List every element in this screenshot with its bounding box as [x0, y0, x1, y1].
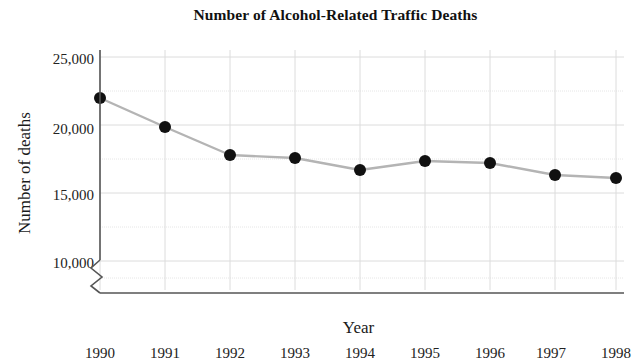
data-point [610, 172, 622, 184]
data-point [354, 164, 366, 176]
chart-title: Number of Alcohol-Related Traffic Deaths [0, 6, 631, 24]
y-tick-label: 25,000 [28, 52, 94, 67]
x-tick-label: 1990 [65, 346, 135, 361]
data-point [224, 149, 236, 161]
data-point-markers [94, 92, 622, 184]
x-tick-label: 1992 [195, 346, 265, 361]
data-point [484, 157, 496, 169]
y-tick-label: 15,000 [28, 188, 94, 203]
x-tick-label: 1993 [260, 346, 330, 361]
data-point [159, 121, 171, 133]
y-tick-label-group: 25,000 20,000 15,000 10,000 [26, 0, 94, 290]
x-axis-title: Year [100, 318, 617, 338]
plot-area: 1990 1991 1992 1993 1994 1995 1996 1997 … [100, 50, 624, 290]
x-tick-label: 1994 [325, 346, 395, 361]
x-tick-label: 1991 [130, 346, 200, 361]
data-point [549, 169, 561, 181]
y-tick-label: 10,000 [28, 256, 94, 271]
data-point [289, 152, 301, 164]
x-tick-label: 1998 [581, 346, 636, 361]
y-tick-label: 20,000 [28, 122, 94, 137]
plot-canvas [100, 50, 624, 300]
x-tick-label: 1995 [390, 346, 460, 361]
x-tick-label: 1996 [455, 346, 525, 361]
data-point [419, 155, 431, 167]
x-tick-label: 1997 [516, 346, 586, 361]
